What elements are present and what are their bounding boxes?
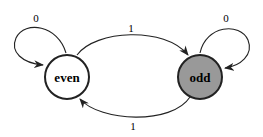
state-even: even (45, 55, 89, 99)
transition-odd-even: 1 (80, 97, 190, 132)
edge-label: 1 (128, 22, 134, 34)
edge-label: 1 (130, 120, 136, 132)
state-label: odd (190, 70, 212, 85)
edge-label: 0 (33, 12, 39, 24)
edge-label: 0 (223, 12, 229, 24)
state-label: even (54, 70, 80, 85)
transition-even-odd: 1 (77, 22, 188, 55)
state-odd: odd (178, 55, 222, 99)
state-diagram: 0 1 0 1 even odd (0, 0, 263, 137)
